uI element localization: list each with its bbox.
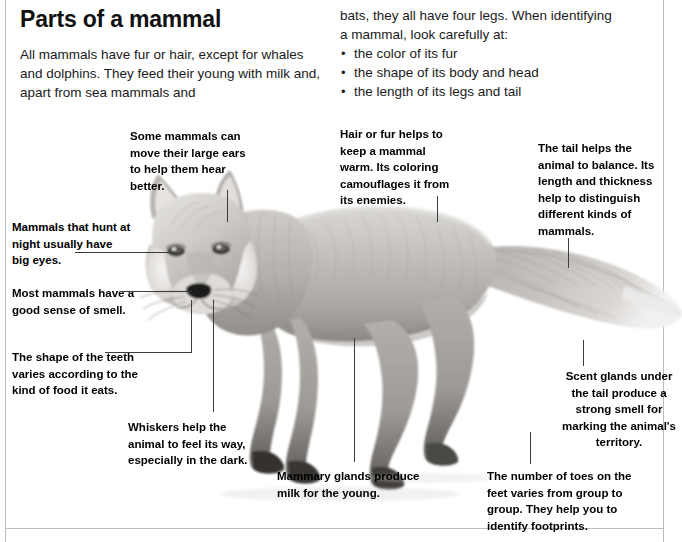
callout-mammary-glands: Mammary glands produce milk for the youn… — [277, 468, 442, 501]
leader-line-tail — [568, 238, 569, 268]
identification-bullet-list: the color of its fur the shape of its bo… — [340, 44, 660, 101]
leader-line-scent-glands — [583, 340, 584, 366]
intro-right-line-1: bats, they all have four legs. When iden… — [340, 6, 660, 25]
leader-line-teeth-vertical — [191, 300, 192, 353]
bullet-item-leg-length: the length of its legs and tail — [340, 82, 660, 101]
page-title: Parts of a mammal — [20, 6, 221, 33]
callout-teeth: The shape of the teeth varies according … — [12, 349, 142, 399]
intro-paragraph-left: All mammals have fur or hair, except for… — [20, 45, 320, 102]
callout-scent-glands: Scent glands under the tail produce a st… — [560, 368, 678, 451]
leader-line-teeth-horizontal — [105, 352, 191, 353]
mammal-diagram-page: Parts of a mammal All mammals have fur o… — [0, 0, 682, 542]
page-border-left — [5, 0, 6, 542]
callout-smell: Most mammals have a good sense of smell. — [12, 285, 137, 318]
bullet-item-fur-color: the color of its fur — [340, 44, 660, 63]
intro-right-line-2: a mammal, look carefully at: — [340, 25, 660, 44]
leader-line-smell — [120, 291, 192, 292]
callout-ears: Some mammals can move their large ears t… — [130, 128, 250, 194]
leader-line-eyes — [75, 252, 175, 253]
leader-line-mammary-glands — [354, 338, 355, 462]
callout-whiskers: Whiskers help the animal to feel its way… — [128, 419, 248, 469]
intro-paragraph-right: bats, they all have four legs. When iden… — [340, 6, 660, 101]
leader-line-toes — [530, 432, 531, 464]
leader-line-whiskers — [213, 300, 214, 412]
callout-toes: The number of toes on the feet varies fr… — [487, 468, 647, 534]
callout-tail: The tail helps the animal to balance. It… — [538, 140, 658, 239]
leader-line-ears — [227, 190, 228, 222]
callout-eyes: Mammals that hunt at night usually have … — [12, 219, 132, 269]
page-border-right — [663, 0, 664, 542]
leader-line-fur — [437, 196, 438, 222]
bullet-item-body-shape: the shape of its body and head — [340, 63, 660, 82]
